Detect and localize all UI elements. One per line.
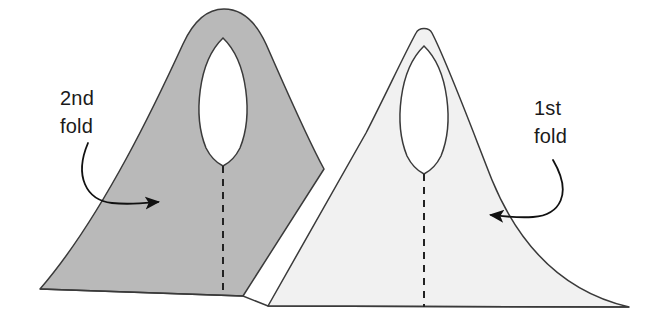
second-fold-label: 2nd fold: [60, 87, 94, 137]
fold-diagram-canvas: 2nd fold 1st fold: [0, 0, 659, 322]
second-fold-label-line2: fold: [60, 115, 93, 137]
second-fold-sheet: [40, 9, 324, 296]
first-fold-label-line1: 1st: [534, 97, 562, 119]
second-fold-sheet-body: [40, 9, 324, 296]
first-fold-label: 1st fold: [534, 97, 567, 147]
fold-diagram: 2nd fold 1st fold: [0, 0, 659, 322]
first-fold-label-line2: fold: [534, 125, 567, 147]
second-fold-label-line1: 2nd: [60, 87, 94, 109]
